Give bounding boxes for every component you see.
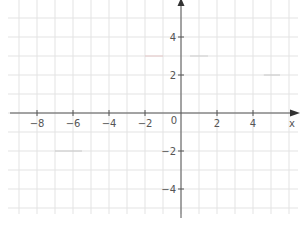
x-tick-label: 2: [214, 118, 220, 129]
x-axis-arrow-icon: [290, 110, 300, 117]
y-tick-label: 4: [170, 32, 176, 43]
x-tick-label: 4: [250, 118, 256, 129]
axes: [10, 0, 300, 218]
x-tick-label: −4: [102, 118, 117, 129]
y-tick-label: −4: [161, 184, 176, 195]
y-tick-label: 2: [170, 70, 176, 81]
x-tick-label: −8: [30, 118, 45, 129]
grid-lines: [8, 0, 298, 214]
coordinate-plane: −8−6−4−22442−2−4 x 0: [0, 0, 308, 236]
x-axis-label: x: [289, 118, 295, 129]
y-tick-label: −2: [161, 146, 176, 157]
y-axis-arrow-icon: [178, 0, 185, 6]
x-tick-label: −2: [138, 118, 153, 129]
origin-label: 0: [171, 115, 177, 126]
x-tick-label: −6: [66, 118, 81, 129]
data-segments: [55, 56, 280, 151]
